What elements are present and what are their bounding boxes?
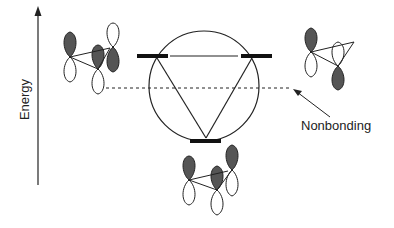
energy-axis-label: Energy xyxy=(17,78,32,122)
frost-circle xyxy=(149,31,259,141)
nonbonding-label: Nonbonding xyxy=(301,118,371,133)
orbital-set-antibonding-left xyxy=(64,23,119,94)
diagram-canvas: Energy Nonbonding xyxy=(0,0,394,228)
nonbonding-pointer-arrow xyxy=(293,89,330,117)
inscribed-triangle xyxy=(157,56,252,138)
orbital-set-antibonding-right xyxy=(305,28,354,90)
energy-level-bonding xyxy=(190,139,221,143)
orbital-set-bonding xyxy=(183,145,238,215)
energy-axis-arrow xyxy=(35,6,42,185)
energy-level-antibonding-left xyxy=(137,54,168,58)
energy-level-antibonding-right xyxy=(241,54,272,58)
diagram-svg xyxy=(0,0,394,228)
